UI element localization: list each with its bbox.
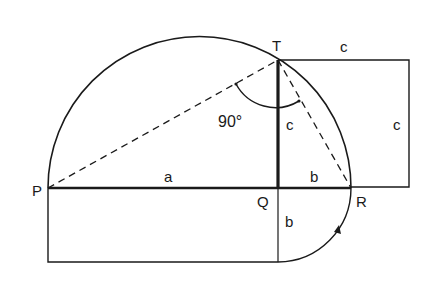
label-a: a	[164, 168, 173, 185]
label-Q: Q	[257, 193, 269, 210]
label-c-right: c	[393, 116, 401, 133]
square-c	[278, 60, 409, 187]
angle-arc	[236, 84, 299, 108]
label-c-top: c	[340, 38, 348, 55]
label-angle: 90°	[218, 113, 242, 130]
chord-PT	[48, 60, 278, 188]
label-P: P	[32, 182, 42, 199]
label-b-top: b	[310, 168, 318, 185]
semicircle-arc	[48, 37, 351, 189]
label-c-altitude: c	[286, 116, 294, 133]
rectangle-ab	[48, 188, 278, 262]
label-R: R	[356, 193, 367, 210]
diagram-canvas: T P Q R a b b c c c 90°	[0, 0, 432, 289]
label-b-side: b	[285, 213, 293, 230]
label-T: T	[272, 37, 281, 54]
